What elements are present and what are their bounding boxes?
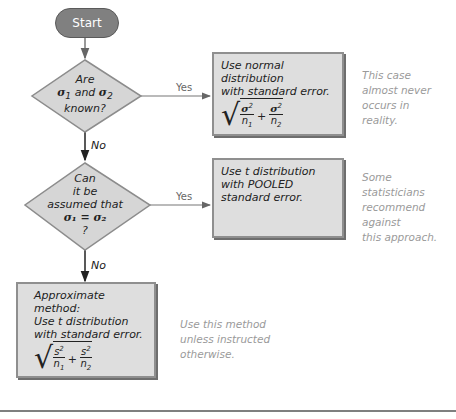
decision-1-sigmas: σ1 and σ2: [45, 86, 125, 102]
note-line: almost never: [362, 83, 431, 98]
yes-label-2: Yes: [176, 191, 192, 202]
note-line: Some: [362, 170, 456, 185]
note-line: reality.: [362, 113, 431, 128]
radical: √: [221, 100, 240, 130]
radical: √: [34, 343, 53, 373]
no-label-2: No: [91, 259, 106, 272]
sub: 1: [60, 364, 64, 372]
fraction: s2n1: [53, 344, 65, 374]
decision-2-text: Can it be assumed that σ₁ = σ₂ ?: [40, 172, 130, 237]
box-line: Approximate method:: [34, 289, 147, 315]
normal-distribution-box: Use normal distribution with standard er…: [212, 52, 344, 136]
note-recommend-against: Some statisticians recommend against thi…: [362, 170, 456, 245]
exp: 2: [86, 345, 90, 353]
exp: 2: [59, 345, 63, 353]
radicand: σ2n1 + σ2n2: [240, 98, 283, 131]
box-line: with POOLED: [221, 178, 335, 191]
fraction: σ2n2: [269, 101, 283, 131]
exp: 2: [249, 102, 253, 110]
note-line: Use this method: [180, 317, 270, 332]
sub: 2: [107, 90, 113, 101]
decision-1-text: Are σ1 and σ2 known?: [45, 73, 125, 115]
sigma: σ: [241, 103, 248, 114]
note-line: This case: [362, 68, 431, 83]
box-line: Use t distribution: [34, 315, 147, 328]
formula-sigma: √ σ2n1 + σ2n2: [221, 98, 283, 131]
decision-2-line: it be: [40, 185, 130, 198]
sub: 1: [248, 121, 252, 129]
pooled-t-box: Use t distribution with POOLED standard …: [212, 158, 344, 238]
sub: 2: [87, 364, 91, 372]
sigma: σ: [99, 86, 107, 99]
sigma: σ: [270, 103, 277, 114]
no-label-1: No: [91, 139, 106, 152]
note-use-this-method: Use this method unless instructed otherw…: [180, 317, 270, 362]
note-line: statisticians: [362, 185, 456, 200]
exp: 2: [278, 102, 282, 110]
note-line: otherwise.: [180, 347, 270, 362]
yes-label-1: Yes: [176, 82, 192, 93]
decision-2-line: ?: [40, 224, 130, 237]
note-line: recommend against: [362, 200, 456, 230]
start-label: Start: [72, 16, 101, 30]
note-never-occurs: This case almost never occurs in reality…: [362, 68, 431, 128]
fraction: s2n2: [80, 344, 92, 374]
start-node: Start: [55, 8, 119, 38]
decision-2-line: assumed that: [40, 198, 130, 211]
decision-2-line: Can: [40, 172, 130, 185]
note-line: this approach.: [362, 230, 456, 245]
note-line: unless instructed: [180, 332, 270, 347]
decision-2-equation: σ₁ = σ₂: [40, 211, 130, 224]
plus: +: [68, 353, 77, 366]
radicand: s2n1 + s2n2: [53, 341, 92, 374]
approximate-method-box: Approximate method: Use t distribution w…: [16, 282, 156, 378]
box-line: standard error.: [221, 191, 335, 204]
sub: 2: [277, 121, 281, 129]
formula-s: √ s2n1 + s2n2: [34, 341, 92, 374]
fraction: σ2n1: [240, 101, 254, 131]
note-line: occurs in: [362, 98, 431, 113]
box-line: Use normal distribution: [221, 59, 335, 85]
plus: +: [257, 110, 266, 123]
and: and: [71, 86, 99, 99]
decision-1-line: Are: [45, 73, 125, 86]
decision-1-line: known?: [45, 102, 125, 115]
box-line: Use t distribution: [221, 165, 335, 178]
